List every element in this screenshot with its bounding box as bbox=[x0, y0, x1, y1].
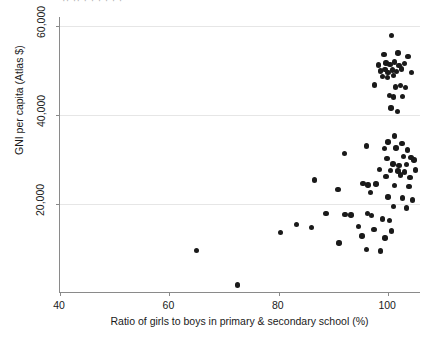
scatter-point bbox=[364, 247, 369, 252]
scatter-point bbox=[348, 212, 353, 217]
x-axis-tick-label: 80 bbox=[272, 299, 284, 311]
scatter-point bbox=[342, 212, 347, 217]
gridline bbox=[60, 115, 420, 116]
scatter-point bbox=[335, 187, 340, 192]
scatter-point bbox=[392, 133, 397, 138]
scatter-point bbox=[194, 248, 199, 253]
scatter-point bbox=[392, 183, 397, 188]
scatter-point bbox=[382, 146, 387, 151]
x-axis-tick bbox=[60, 292, 61, 296]
scatter-point bbox=[400, 94, 405, 99]
scatter-point bbox=[405, 147, 410, 152]
scatter-point bbox=[389, 33, 394, 38]
scatter-point bbox=[323, 211, 328, 216]
scatter-point bbox=[381, 52, 386, 57]
scatter-point bbox=[410, 197, 415, 202]
gridline bbox=[60, 26, 420, 27]
scatter-point bbox=[378, 248, 383, 253]
scatter-point bbox=[413, 167, 418, 172]
scatter-point bbox=[395, 109, 400, 114]
scatter-point bbox=[404, 205, 409, 210]
plot-area bbox=[59, 17, 420, 293]
scatter-point bbox=[388, 168, 393, 173]
scatter-point bbox=[369, 213, 374, 218]
scatter-point bbox=[368, 190, 373, 195]
scatter-point bbox=[400, 195, 405, 200]
scatter-point bbox=[336, 240, 341, 245]
scatter-point bbox=[390, 161, 395, 166]
scatter-point bbox=[388, 105, 393, 110]
y-axis-tick-label: 60,000 bbox=[35, 6, 47, 38]
x-axis-title: Ratio of girls to boys in primary & seco… bbox=[59, 315, 420, 327]
scatter-point bbox=[403, 85, 408, 90]
x-axis-tick bbox=[388, 292, 389, 296]
y-axis-tick-labels: 20,00040,00060,00080,000 bbox=[0, 0, 59, 293]
scatter-point bbox=[365, 182, 370, 187]
scatter-point bbox=[312, 177, 317, 182]
scatter-point bbox=[385, 139, 390, 144]
scatter-point bbox=[342, 151, 347, 156]
y-axis-title: GNI per capita (Atlas $) bbox=[13, 45, 25, 155]
scatter-point bbox=[384, 156, 389, 161]
scatter-point bbox=[404, 162, 409, 167]
scatter-point bbox=[294, 222, 299, 227]
scatter-plot-figure: ·· ·· · · · · · · 20,00040,00060,00080,0… bbox=[0, 0, 447, 349]
x-axis-tick bbox=[169, 292, 170, 296]
clipped-title-fragment: ·· ·· · · · · · · bbox=[62, 0, 402, 6]
scatter-point bbox=[385, 75, 390, 80]
scatter-point bbox=[356, 224, 361, 229]
scatter-point bbox=[391, 94, 396, 99]
scatter-point bbox=[406, 184, 411, 189]
scatter-point bbox=[371, 227, 376, 232]
scatter-point bbox=[391, 73, 396, 78]
scatter-point bbox=[380, 216, 385, 221]
scatter-point bbox=[395, 50, 400, 55]
y-axis-tick-label: 40,000 bbox=[35, 95, 47, 127]
x-axis-tick-label: 100 bbox=[378, 299, 396, 311]
scatter-point bbox=[398, 172, 403, 177]
scatter-point bbox=[382, 235, 387, 240]
scatter-point bbox=[402, 61, 407, 66]
scatter-point bbox=[391, 204, 396, 209]
scatter-point bbox=[387, 218, 392, 223]
x-axis-tick-label: 40 bbox=[53, 299, 65, 311]
scatter-point bbox=[389, 228, 394, 233]
scatter-point bbox=[235, 282, 240, 287]
scatter-point bbox=[405, 54, 410, 59]
scatter-point bbox=[309, 225, 314, 230]
scatter-point bbox=[385, 194, 390, 199]
x-axis-tick-label: 60 bbox=[163, 299, 175, 311]
scatter-point bbox=[377, 167, 382, 172]
x-axis-tick bbox=[279, 292, 280, 296]
scatter-point bbox=[359, 233, 364, 238]
scatter-point bbox=[372, 82, 377, 87]
scatter-point bbox=[393, 145, 398, 150]
scatter-point bbox=[383, 174, 388, 179]
scatter-point bbox=[399, 141, 404, 146]
scatter-point bbox=[407, 175, 412, 180]
scatter-point bbox=[401, 154, 406, 159]
scatter-point bbox=[376, 62, 381, 67]
scatter-point bbox=[411, 157, 416, 162]
scatter-point bbox=[364, 143, 369, 148]
gridline bbox=[60, 204, 420, 205]
scatter-point bbox=[278, 230, 283, 235]
y-axis-tick-label: 20,000 bbox=[34, 184, 46, 216]
scatter-point bbox=[373, 181, 378, 186]
scatter-point bbox=[399, 66, 404, 71]
scatter-point bbox=[409, 70, 414, 75]
